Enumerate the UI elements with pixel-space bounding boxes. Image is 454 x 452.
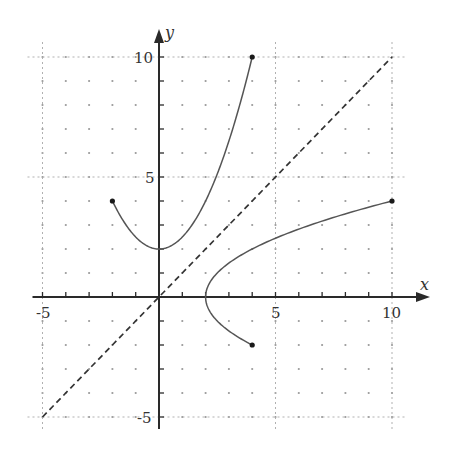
- grid-dot: [65, 272, 67, 274]
- grid-dot: [65, 80, 67, 82]
- grid-dot: [228, 344, 230, 346]
- grid-dot: [321, 248, 323, 250]
- grid-dot: [274, 80, 276, 82]
- grid-dot: [135, 344, 137, 346]
- grid-dot: [65, 128, 67, 130]
- grid-dot: [65, 176, 67, 178]
- grid-dot: [205, 344, 207, 346]
- grid-dot: [228, 248, 230, 250]
- grid-dot: [181, 248, 183, 250]
- grid-dot: [205, 272, 207, 274]
- grid-dot: [88, 224, 90, 226]
- grid-dot: [111, 80, 113, 82]
- grid-dot: [344, 80, 346, 82]
- grid-dot: [391, 80, 393, 82]
- grid-dot: [181, 104, 183, 106]
- grid-dot: [65, 416, 67, 418]
- y-axis-arrow-icon: [154, 29, 164, 43]
- axes: [33, 29, 431, 429]
- grid-dot: [65, 200, 67, 202]
- grid-dot: [205, 128, 207, 130]
- grid-dot: [181, 152, 183, 154]
- grid-dot: [344, 368, 346, 370]
- grid-dot: [344, 128, 346, 130]
- grid-dot: [111, 104, 113, 106]
- y-tick-label-neg5: -5: [137, 409, 152, 427]
- grid-dot: [88, 320, 90, 322]
- grid-dot: [65, 56, 67, 58]
- x-axis-label: x: [420, 275, 429, 294]
- grid-dot: [41, 224, 43, 226]
- grid-dot: [298, 368, 300, 370]
- grid-dot: [251, 80, 253, 82]
- x-tick-label-neg5: -5: [36, 304, 51, 322]
- grid-dot: [368, 248, 370, 250]
- grid-dot: [135, 224, 137, 226]
- grid-dot: [274, 224, 276, 226]
- grid-dot: [205, 392, 207, 394]
- grid-dot: [88, 272, 90, 274]
- grid-dot: [368, 104, 370, 106]
- grid-dot: [321, 272, 323, 274]
- grid-dot: [368, 80, 370, 82]
- grid-dot: [251, 128, 253, 130]
- grid-dot: [41, 80, 43, 82]
- plot-series: [43, 54, 395, 417]
- grid-dot: [344, 56, 346, 58]
- grid-dot: [205, 56, 207, 58]
- grid-dot: [298, 392, 300, 394]
- grid-dot: [65, 224, 67, 226]
- grid-dot: [251, 272, 253, 274]
- grid-dot: [298, 80, 300, 82]
- grid-dot: [181, 128, 183, 130]
- grid-dot: [135, 176, 137, 178]
- grid-dot: [88, 152, 90, 154]
- grid-dot: [368, 344, 370, 346]
- grid-dot: [298, 128, 300, 130]
- y-tick-label-10: 10: [134, 49, 153, 67]
- grid-dot: [368, 320, 370, 322]
- x-tick-label-5: 5: [271, 304, 281, 322]
- grid-dot: [181, 392, 183, 394]
- grid-dot: [228, 320, 230, 322]
- grid-dot: [205, 320, 207, 322]
- grid-dot: [135, 104, 137, 106]
- grid-dot: [344, 248, 346, 250]
- grid-dot: [205, 80, 207, 82]
- grid-dot: [298, 320, 300, 322]
- grid-dot: [41, 344, 43, 346]
- grid-dot: [65, 152, 67, 154]
- grid-dot: [251, 224, 253, 226]
- grid-dot: [88, 392, 90, 394]
- grid-dot: [88, 344, 90, 346]
- grid-dot: [298, 152, 300, 154]
- grid-dot: [135, 128, 137, 130]
- grid-dot: [228, 152, 230, 154]
- grid-dot: [228, 392, 230, 394]
- grid-dot: [391, 224, 393, 226]
- grid-dot: [135, 152, 137, 154]
- grid-dot: [111, 128, 113, 130]
- grid-dot: [111, 320, 113, 322]
- y-axis-label: y: [164, 23, 175, 42]
- grid-dot: [344, 176, 346, 178]
- endpoint-dot: [250, 342, 255, 347]
- grid-dot: [298, 344, 300, 346]
- grid-dot: [344, 392, 346, 394]
- grid-dot: [181, 80, 183, 82]
- grid-dot: [344, 224, 346, 226]
- grid-dot: [344, 272, 346, 274]
- grid-dot: [344, 152, 346, 154]
- endpoint-dot: [250, 54, 255, 59]
- grid-dot: [228, 80, 230, 82]
- grid-dot: [344, 320, 346, 322]
- grid-dot: [181, 200, 183, 202]
- grid-dot: [321, 320, 323, 322]
- grid-dot: [88, 104, 90, 106]
- grid-dot: [88, 128, 90, 130]
- grid-dot: [205, 368, 207, 370]
- x-tick-label-10: 10: [382, 304, 401, 322]
- grid-dot: [368, 128, 370, 130]
- grid-dot: [321, 392, 323, 394]
- grid-dot: [111, 224, 113, 226]
